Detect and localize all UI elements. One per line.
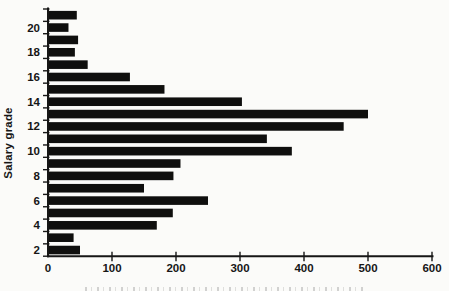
y-axis-label-16: 16 xyxy=(27,71,40,83)
bar-grade-15 xyxy=(48,85,164,94)
x-axis-label-300: 300 xyxy=(230,262,249,274)
y-axis-label-2: 2 xyxy=(34,244,40,256)
bar-grade-18 xyxy=(48,48,75,57)
y-axis-label-8: 8 xyxy=(34,170,41,182)
bar-grade-10 xyxy=(48,147,292,156)
y-axis-label-14: 14 xyxy=(27,96,40,108)
bar-grade-11 xyxy=(48,135,267,144)
cropped-caption-fragment xyxy=(85,287,365,291)
bar-grade-4 xyxy=(48,221,157,230)
bar-grade-17 xyxy=(48,60,88,69)
bar-grade-5 xyxy=(48,209,173,218)
x-axis-label-400: 400 xyxy=(294,262,313,274)
scanned-bar-chart-page: 20181614121086420100200300400500600Salar… xyxy=(0,0,449,291)
y-axis-label-6: 6 xyxy=(34,195,40,207)
bar-grade-7 xyxy=(48,184,144,193)
x-axis-label-500: 500 xyxy=(358,262,377,274)
bar-grade-12 xyxy=(48,122,344,131)
bar-grade-8 xyxy=(48,172,173,181)
y-axis-label-18: 18 xyxy=(27,46,40,58)
bar-grade-2 xyxy=(48,246,80,255)
bar-grade-3 xyxy=(48,233,74,242)
y-axis-label-12: 12 xyxy=(27,120,40,132)
x-axis-label-200: 200 xyxy=(166,262,185,274)
bar-grade-9 xyxy=(48,159,180,168)
bar-grade-21 xyxy=(48,11,77,20)
bar-grade-20 xyxy=(48,23,68,32)
y-axis-title: Salary grade xyxy=(2,107,14,178)
bar-grade-19 xyxy=(48,36,78,45)
y-axis-label-20: 20 xyxy=(27,22,40,34)
bar-grade-16 xyxy=(48,73,130,82)
bar-grade-6 xyxy=(48,196,208,205)
x-axis-label-100: 100 xyxy=(102,262,121,274)
bar-grade-13 xyxy=(48,110,368,119)
bar-grade-14 xyxy=(48,97,242,106)
y-axis-label-4: 4 xyxy=(34,219,41,231)
y-axis-label-10: 10 xyxy=(27,145,40,157)
salary-grade-bar-chart: 20181614121086420100200300400500600Salar… xyxy=(0,0,449,291)
x-axis-label-0: 0 xyxy=(45,262,51,274)
x-axis-label-600: 600 xyxy=(422,262,441,274)
